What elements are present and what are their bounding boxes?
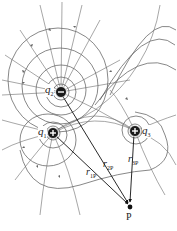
field-arrows	[22, 26, 128, 178]
field-diagram	[0, 0, 177, 231]
label-p: P	[126, 212, 132, 222]
label-r3p: r3P	[128, 154, 138, 166]
label-r2p: r2P	[103, 159, 113, 171]
charge-q2	[56, 87, 67, 98]
field-lines	[2, 2, 176, 215]
point-p	[128, 205, 133, 210]
charge-q3	[130, 126, 141, 137]
label-q2: q2	[45, 84, 54, 97]
label-r1p: r1P	[86, 167, 96, 179]
label-q1: q1	[38, 126, 47, 139]
charge-q1	[48, 128, 59, 139]
label-q3: q3	[142, 125, 151, 138]
